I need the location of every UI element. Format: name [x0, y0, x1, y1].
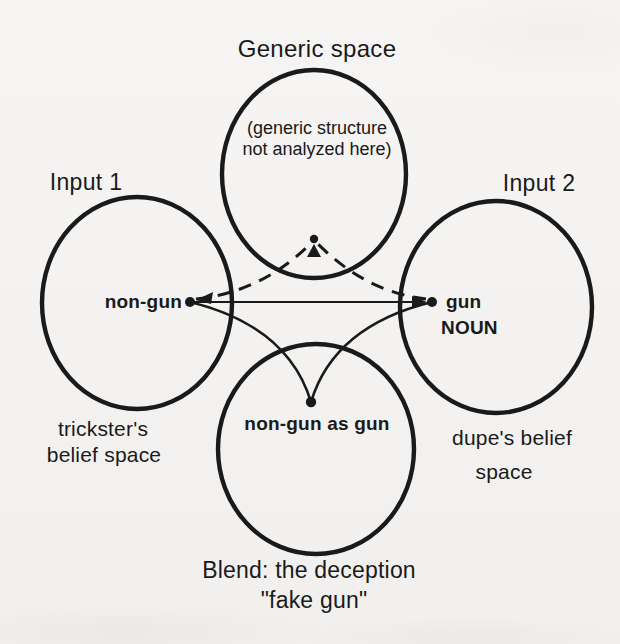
gun-point-label: gun	[446, 291, 481, 312]
input2-title: Input 2	[503, 170, 575, 196]
input1-caption-line1: trickster's	[58, 417, 148, 440]
generic-note-line1: (generic structure	[247, 118, 387, 138]
generic-space-title: Generic space	[238, 35, 397, 62]
input2-caption-line2: space	[475, 460, 532, 483]
curve-connector-nongun-blend	[190, 302, 311, 402]
blend-point-label: non-gun as gun	[244, 413, 389, 434]
noun-point-sublabel: NOUN	[441, 317, 498, 338]
input2-circle	[400, 201, 592, 413]
input1-title: Input 1	[50, 169, 122, 195]
input1-caption-line2: belief space	[47, 443, 161, 466]
curve-connector-gun-blend	[311, 302, 432, 402]
blend-circle	[218, 344, 414, 554]
blend-caption-line1: Blend: the deception	[202, 557, 416, 583]
generic-note-line2: not analyzed here)	[242, 139, 391, 159]
scanned-figure-page: Generic space Input 1 Input 2 (generic s…	[0, 0, 620, 644]
input2-caption-line1: dupe's belief	[452, 426, 572, 449]
gun-point-dot	[427, 297, 437, 307]
generic-point-dot	[310, 235, 318, 243]
nongun-point-dot	[185, 297, 195, 307]
conceptual-blending-diagram: Generic space Input 1 Input 2 (generic s…	[0, 0, 620, 644]
blend-point-dot	[306, 397, 316, 407]
nongun-point-label: non-gun	[105, 291, 182, 312]
blend-caption-line2: "fake gun"	[261, 587, 368, 613]
